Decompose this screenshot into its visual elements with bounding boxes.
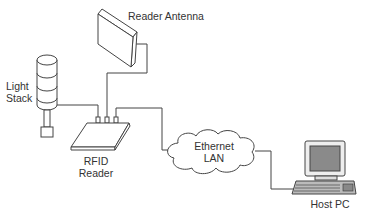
light-stack-label-line1: Light [6, 80, 32, 92]
antenna-label: Reader Antenna [128, 10, 204, 22]
lan-label-line1: Ethernet [190, 140, 238, 152]
diagram-canvas [0, 0, 366, 214]
light-stack-icon [37, 55, 57, 137]
host-pc-label: Host PC [306, 198, 354, 210]
lan-label-line2: LAN [190, 152, 238, 164]
reader-label-line1: RFID [78, 155, 114, 167]
light-stack-label: Light Stack [6, 80, 32, 104]
wire-light-stack [57, 105, 98, 117]
reader-label-line2: Reader [78, 167, 114, 179]
light-stack-label-line2: Stack [6, 92, 32, 104]
host-pc-icon [292, 141, 356, 194]
lan-label: Ethernet LAN [190, 140, 238, 164]
rfid-reader-icon [71, 117, 130, 150]
wire-lan-host [255, 151, 294, 189]
reader-label: RFID Reader [78, 155, 114, 179]
